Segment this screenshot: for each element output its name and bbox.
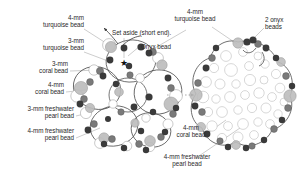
label-turquoise-3mm: 3-mm turquoise bead <box>4 37 84 52</box>
label-set-aside: Set aside (short end). <box>112 29 192 36</box>
label-coral-4mm: 4-mm coral bead <box>0 81 64 96</box>
figure-canvas: ★ <box>0 0 307 182</box>
label-onyx-bead: Onyx bead <box>141 43 191 50</box>
label-turquoise-4mm-right: 4-mm turquoise bead <box>163 8 227 23</box>
label-pearl-4mm: 4-mm freshwater pearl bead <box>0 127 74 142</box>
label-pearl-3mm: 3-mm freshwater pearl bead <box>0 105 74 120</box>
label-coral-4mm-right: 4-mm coral bead <box>162 124 220 139</box>
label-turquoise-4mm: 4-mm turquoise bead <box>4 14 84 29</box>
label-coral-3mm: 3-mm coral bead <box>0 60 68 75</box>
label-2-onyx-beads: 2 onyx beads <box>265 16 305 31</box>
label-pearl-4mm-right: 4-mm freshwater pearl bead <box>145 153 229 168</box>
star-marker: ★ <box>120 58 128 68</box>
